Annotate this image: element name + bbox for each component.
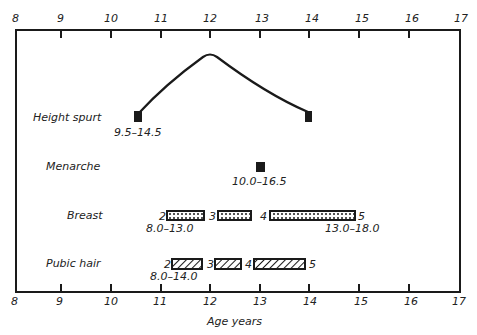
bottom-tick-label: 9	[56, 295, 63, 308]
pubic-stage-5-label: 5	[309, 258, 316, 271]
height-spurt-start-marker	[134, 111, 142, 122]
pubic-stage-3-label: 3	[207, 258, 214, 271]
breast-end-range-label: 13.0–18.0	[325, 222, 379, 235]
row-label-pubic-hair: Pubic hair	[46, 257, 100, 270]
bottom-axis-ticks	[61, 284, 409, 292]
breast-stage-4-5-bar	[270, 211, 355, 220]
pubic-stage-4-5-bar	[254, 259, 305, 269]
pubic-stage-3-4-bar	[215, 259, 241, 269]
breast-stage-4-label: 4	[260, 210, 267, 223]
bottom-tick-label: 13	[253, 295, 267, 308]
bottom-tick-label: 16	[404, 295, 418, 308]
top-tick-label: 16	[405, 12, 419, 25]
x-axis-title: Age years	[207, 315, 262, 328]
height-spurt-curve	[138, 55, 308, 115]
top-axis-ticks	[61, 30, 409, 38]
breast-stage-3-4-bar	[218, 211, 251, 220]
row-label-breast: Breast	[67, 209, 103, 222]
top-tick-label: 10	[104, 12, 118, 25]
breast-stage-3-label: 3	[209, 210, 216, 223]
top-tick-label: 11	[154, 12, 168, 25]
breast-stage-2-3-bar	[167, 211, 204, 220]
top-tick-label: 8	[12, 12, 19, 25]
bottom-tick-label: 15	[354, 295, 368, 308]
bottom-tick-label: 10	[104, 295, 118, 308]
menarche-range-label: 10.0–16.5	[232, 175, 286, 188]
pubic-stage-4-label: 4	[245, 258, 252, 271]
pubic-start-range-label: 8.0–14.0	[150, 270, 198, 283]
bottom-tick-label: 8	[11, 295, 18, 308]
height-spurt-end-marker	[305, 111, 312, 122]
top-tick-label: 15	[355, 12, 369, 25]
height-range-label: 9.5–14.5	[114, 126, 162, 139]
top-tick-label: 14	[305, 12, 319, 25]
bottom-tick-label: 17	[452, 295, 466, 308]
top-tick-label: 17	[454, 12, 468, 25]
pubic-stage-2-3-bar	[172, 259, 202, 269]
breast-start-range-label: 8.0–13.0	[146, 222, 194, 235]
top-tick-label: 13	[255, 12, 269, 25]
row-label-height-spurt: Height spurt	[33, 111, 101, 124]
bottom-tick-label: 11	[153, 295, 167, 308]
menarche-marker	[256, 162, 265, 172]
row-label-menarche: Menarche	[46, 160, 100, 173]
bottom-tick-label: 14	[303, 295, 317, 308]
bottom-tick-label: 12	[203, 295, 217, 308]
top-tick-label: 9	[57, 12, 64, 25]
top-tick-label: 12	[203, 12, 217, 25]
